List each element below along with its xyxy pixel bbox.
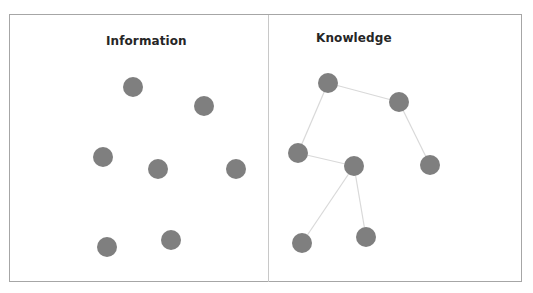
information-node-i7 bbox=[161, 230, 181, 250]
information-panel bbox=[93, 77, 246, 257]
knowledge-edges bbox=[298, 83, 430, 243]
knowledge-edge-k4-k6 bbox=[302, 166, 354, 243]
knowledge-node-k2 bbox=[389, 92, 409, 112]
information-node-i1 bbox=[123, 77, 143, 97]
diagram-canvas bbox=[0, 0, 533, 293]
knowledge-node-k5 bbox=[420, 155, 440, 175]
information-node-i2 bbox=[194, 96, 214, 116]
information-node-i5 bbox=[226, 159, 246, 179]
knowledge-edge-k1-k3 bbox=[298, 83, 328, 153]
knowledge-edge-k4-k7 bbox=[354, 166, 366, 237]
information-node-i3 bbox=[93, 147, 113, 167]
knowledge-node-k4 bbox=[344, 156, 364, 176]
knowledge-edge-k1-k2 bbox=[328, 83, 399, 102]
knowledge-node-k3 bbox=[288, 143, 308, 163]
information-node-i6 bbox=[97, 237, 117, 257]
knowledge-edge-k2-k5 bbox=[399, 102, 430, 165]
knowledge-node-k1 bbox=[318, 73, 338, 93]
knowledge-node-k7 bbox=[356, 227, 376, 247]
knowledge-node-k6 bbox=[292, 233, 312, 253]
information-node-i4 bbox=[148, 159, 168, 179]
